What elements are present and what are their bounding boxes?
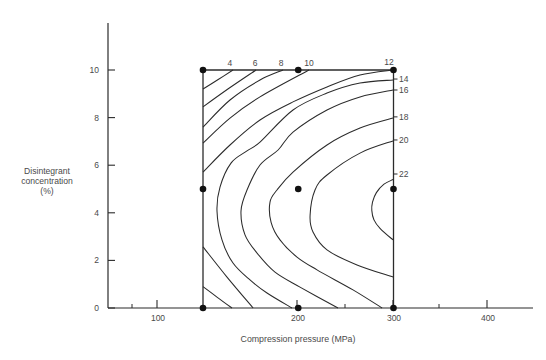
contour-label: 10 (304, 58, 314, 68)
design-point (200, 186, 207, 193)
design-point (390, 305, 397, 312)
y-tick-label: 10 (90, 65, 100, 75)
contour-label: 14 (399, 74, 409, 84)
y-tick-label: 6 (94, 160, 99, 170)
design-point (200, 305, 207, 312)
contour-line-6 (203, 70, 256, 107)
design-point (295, 305, 302, 312)
contour-label: 8 (279, 58, 284, 68)
y-tick-label: 2 (94, 255, 99, 265)
contour-label: 16 (399, 85, 409, 95)
y-axis-title: Disintegrant concentration (%) (7, 166, 87, 196)
y-axis-title-line-2: concentration (7, 176, 87, 186)
y-tick-label: 0 (94, 303, 99, 313)
y-tick-label: 8 (94, 113, 99, 123)
contour-label: 20 (399, 135, 409, 145)
contour-label: 4 (228, 58, 233, 68)
y-tick-label: 4 (94, 208, 99, 218)
design-point (200, 67, 207, 74)
contour-label: 22 (399, 169, 409, 179)
design-point (390, 186, 397, 193)
contour-line-22 (372, 180, 393, 240)
contour-line-4 (203, 287, 232, 308)
x-tick-label: 200 (291, 313, 305, 323)
design-point (295, 67, 302, 74)
x-tick-label: 400 (481, 313, 495, 323)
x-axis-title: Compression pressure (MPa) (198, 334, 398, 345)
contour-line-20 (310, 141, 393, 277)
design-point (295, 186, 302, 193)
y-axis-title-line-1: Disintegrant (7, 166, 87, 176)
contour-line-16 (241, 90, 393, 308)
y-axis-title-line-3: (%) (7, 186, 87, 196)
contour-line-14 (217, 80, 393, 308)
contour-line-4 (203, 70, 233, 89)
contour-label: 18 (399, 112, 409, 122)
contour-label: 12 (384, 57, 394, 67)
design-point (390, 67, 397, 74)
contour-line-12 (203, 70, 393, 172)
x-tick-label: 100 (151, 313, 165, 323)
x-tick-label: 300 (387, 313, 401, 323)
contour-label: 6 (253, 58, 258, 68)
